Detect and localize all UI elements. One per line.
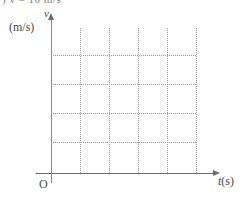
y-axis-line — [51, 18, 52, 183]
gridline-vertical — [167, 28, 168, 173]
gridline-horizontal — [51, 113, 196, 114]
origin-label: O — [39, 177, 48, 192]
y-axis-unit-label: (m/s) — [9, 20, 34, 35]
gridline-vertical — [80, 28, 81, 173]
gridline-horizontal — [51, 55, 196, 56]
x-axis-line — [36, 173, 216, 174]
cut-off-text-fragment: ) v = 10 m/s — [2, 0, 61, 5]
x-axis-unit-label: (s) — [221, 174, 234, 188]
gridline-horizontal — [51, 142, 196, 143]
gridline-vertical — [138, 28, 139, 173]
gridline-vertical — [109, 28, 110, 173]
y-axis-symbol-label: v — [44, 7, 49, 19]
gridline-horizontal — [51, 84, 196, 85]
velocity-time-graph-figure: ) v = 10 m/s v (m/s) t(s) O — [0, 0, 243, 197]
gridline-vertical — [196, 28, 197, 173]
x-axis-label: t(s) — [218, 174, 234, 189]
